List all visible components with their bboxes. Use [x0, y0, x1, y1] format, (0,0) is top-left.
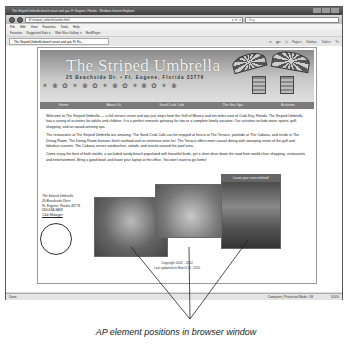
figure-annotation: AP element positions in browser window [0, 327, 352, 337]
callout-lines [0, 0, 352, 345]
